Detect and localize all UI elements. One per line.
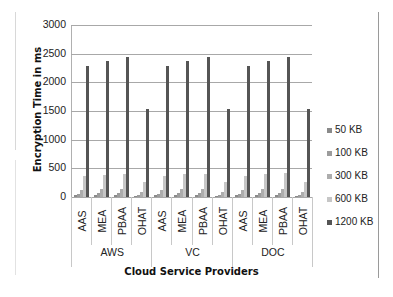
bar [106, 61, 109, 197]
legend-swatch-icon [327, 220, 332, 225]
gridline [71, 54, 312, 55]
bar [166, 66, 169, 197]
legend-swatch-icon [327, 197, 332, 202]
category-label: OHAT [292, 197, 313, 245]
legend-label: 100 KB [335, 147, 368, 158]
legend-item: 1200 KB [327, 216, 387, 228]
bar [86, 66, 89, 197]
category-label: MEA [171, 197, 192, 245]
gridline [71, 25, 312, 26]
y-tick: 1500 [30, 104, 66, 116]
group-label: AWS [71, 245, 152, 267]
legend-label: 600 KB [335, 193, 368, 204]
y-tick: 2500 [30, 47, 66, 59]
chart-frame-left [15, 12, 16, 150]
category-label: PBAA [192, 197, 213, 245]
category-label: AAS [151, 197, 172, 245]
y-tick: 0 [30, 190, 66, 202]
legend-swatch-icon [327, 151, 332, 156]
category-label: PBAA [111, 197, 132, 245]
bar [247, 66, 250, 197]
legend-label: 1200 KB [335, 216, 373, 227]
y-tick: 3000 [30, 18, 66, 30]
bar [267, 61, 270, 197]
y-tick: 2000 [30, 75, 66, 87]
bar [126, 57, 129, 197]
bar [307, 109, 310, 197]
category-axis: AASMEAPBAAOHATAASMEAPBAAOHATAASMEAPBAAOH… [71, 197, 312, 245]
bar [227, 109, 230, 197]
group-axis: AWSVCDOC [71, 245, 312, 267]
legend-item: 600 KB [327, 193, 387, 205]
category-label: AAS [232, 197, 253, 245]
category-label: PBAA [272, 197, 293, 245]
chart-frame-left-lower [15, 160, 16, 275]
category-label: AAS [71, 197, 92, 245]
category-label: OHAT [131, 197, 152, 245]
category-label: OHAT [212, 197, 233, 245]
chart-frame-right [378, 12, 379, 278]
legend-item: 50 KB [327, 124, 387, 136]
bar [186, 61, 189, 197]
legend-label: 300 KB [335, 170, 368, 181]
legend-item: 100 KB [327, 147, 387, 159]
legend-label: 50 KB [335, 124, 362, 135]
group-label: DOC [232, 245, 313, 267]
x-axis-title: Cloud Service Providers [71, 266, 312, 277]
y-tick: 500 [30, 161, 66, 173]
axis-end-divider [312, 197, 313, 267]
category-label: MEA [91, 197, 112, 245]
legend-swatch-icon [327, 174, 332, 179]
plot-area [71, 25, 312, 197]
legend-swatch-icon [327, 128, 332, 133]
category-label: MEA [252, 197, 273, 245]
bar [287, 57, 290, 197]
bar [207, 57, 210, 197]
group-label: VC [151, 245, 232, 267]
bar [146, 109, 149, 197]
legend-item: 300 KB [327, 170, 387, 182]
y-tick: 1000 [30, 133, 66, 145]
